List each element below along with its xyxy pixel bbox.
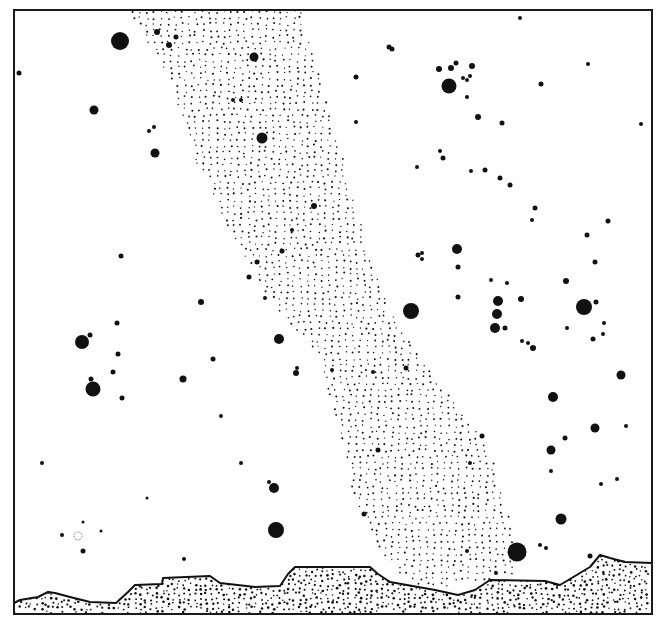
star-icon bbox=[591, 337, 596, 342]
star-icon bbox=[526, 341, 530, 345]
star-icon bbox=[448, 65, 454, 71]
star-icon bbox=[40, 461, 44, 465]
star-icon bbox=[539, 82, 544, 87]
star-icon bbox=[548, 392, 558, 402]
star-icon bbox=[563, 278, 569, 284]
star-icon bbox=[456, 295, 461, 300]
star-icon bbox=[483, 168, 488, 173]
star-icon bbox=[416, 253, 421, 258]
star-icon bbox=[111, 32, 129, 50]
star-icon bbox=[505, 281, 509, 285]
stars bbox=[17, 16, 644, 575]
star-icon bbox=[442, 79, 457, 94]
star-icon bbox=[436, 66, 442, 72]
star-icon bbox=[591, 424, 600, 433]
star-icon bbox=[490, 323, 500, 333]
star-icon bbox=[75, 335, 89, 349]
star-icon bbox=[547, 446, 556, 455]
star-icon bbox=[250, 53, 259, 62]
star-icon bbox=[602, 321, 606, 325]
star-icon bbox=[468, 461, 472, 465]
star-icon bbox=[115, 321, 120, 326]
star-icon bbox=[311, 203, 317, 209]
star-icon bbox=[489, 278, 493, 282]
star-icon bbox=[565, 326, 569, 330]
star-icon bbox=[538, 543, 542, 547]
star-icon bbox=[180, 376, 187, 383]
star-icon bbox=[390, 47, 395, 52]
star-icon bbox=[544, 546, 548, 550]
star-icon bbox=[290, 228, 294, 232]
star-icon bbox=[263, 296, 267, 300]
star-icon bbox=[492, 309, 502, 319]
chart-frame bbox=[14, 10, 652, 614]
star-icon bbox=[530, 345, 536, 351]
star-icon bbox=[81, 549, 86, 554]
star-icon bbox=[257, 133, 268, 144]
star-icon bbox=[166, 42, 172, 48]
star-icon bbox=[330, 368, 334, 372]
star-icon bbox=[606, 219, 611, 224]
star-icon bbox=[520, 339, 524, 343]
star-icon bbox=[469, 169, 473, 173]
star-chart bbox=[0, 0, 665, 627]
star-icon bbox=[239, 98, 243, 102]
star-icon bbox=[280, 249, 285, 254]
star-icon bbox=[465, 78, 469, 82]
star-icon bbox=[639, 122, 643, 126]
star-icon bbox=[465, 549, 469, 553]
star-icon bbox=[617, 371, 626, 380]
star-icon bbox=[152, 125, 156, 129]
star-icon bbox=[362, 512, 367, 517]
star-icon bbox=[498, 176, 503, 181]
star-icon bbox=[354, 120, 358, 124]
star-icon bbox=[615, 477, 619, 481]
star-icon bbox=[415, 165, 419, 169]
star-icon bbox=[219, 414, 223, 418]
star-icon bbox=[293, 370, 299, 376]
star-icon bbox=[60, 533, 64, 537]
star-icon bbox=[586, 62, 590, 66]
star-icon bbox=[563, 436, 568, 441]
star-icon bbox=[456, 265, 461, 270]
star-icon bbox=[267, 480, 271, 484]
star-icon bbox=[120, 396, 125, 401]
star-icon bbox=[518, 16, 522, 20]
star-icon bbox=[90, 106, 99, 115]
star-icon bbox=[494, 571, 498, 575]
star-icon bbox=[593, 260, 598, 265]
star-icon bbox=[371, 370, 375, 374]
star-icon bbox=[468, 74, 472, 78]
star-icon bbox=[438, 149, 442, 153]
star-icon bbox=[461, 76, 465, 80]
star-icon bbox=[89, 377, 94, 382]
star-icon bbox=[454, 61, 459, 66]
star-icon bbox=[503, 326, 508, 331]
star-icon bbox=[239, 461, 243, 465]
star-icon bbox=[530, 218, 534, 222]
star-icon bbox=[119, 254, 124, 259]
star-icon bbox=[594, 300, 599, 305]
star-icon bbox=[480, 434, 485, 439]
star-icon bbox=[508, 183, 513, 188]
star-icon bbox=[295, 366, 299, 370]
star-icon bbox=[493, 296, 503, 306]
nebula-icon bbox=[74, 532, 82, 540]
star-icon bbox=[599, 482, 603, 486]
star-icon bbox=[549, 469, 553, 473]
star-icon bbox=[452, 244, 462, 254]
star-icon bbox=[116, 352, 121, 357]
horizon-ground bbox=[14, 555, 652, 614]
star-icon bbox=[556, 514, 567, 525]
star-icon bbox=[533, 206, 538, 211]
star-icon bbox=[147, 129, 151, 133]
star-icon bbox=[404, 366, 409, 371]
star-icon bbox=[354, 75, 359, 80]
star-icon bbox=[465, 95, 469, 99]
star-icon bbox=[182, 557, 186, 561]
star-icon bbox=[469, 63, 475, 69]
star-icon bbox=[231, 98, 235, 102]
star-icon bbox=[274, 334, 284, 344]
star-icon bbox=[88, 333, 93, 338]
star-icon bbox=[269, 483, 279, 493]
